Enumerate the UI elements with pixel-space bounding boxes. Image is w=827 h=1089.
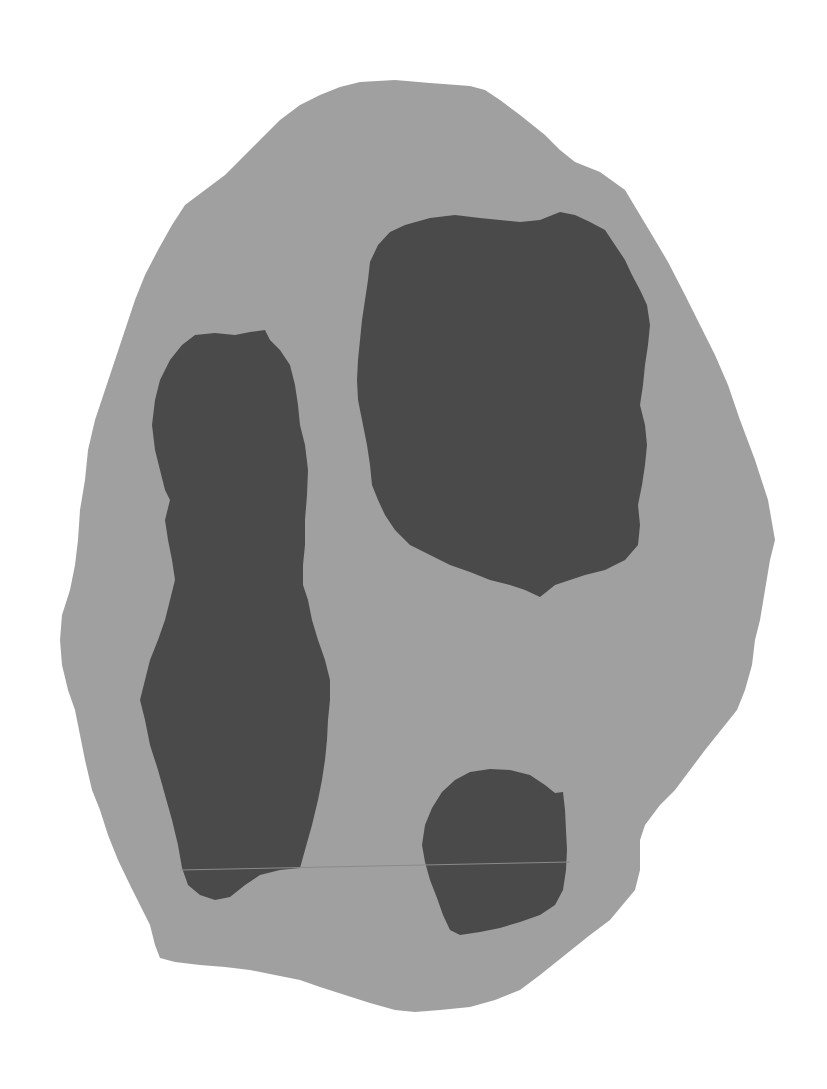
bottom-small-blob [422,769,567,935]
segmentation-canvas [0,0,827,1089]
